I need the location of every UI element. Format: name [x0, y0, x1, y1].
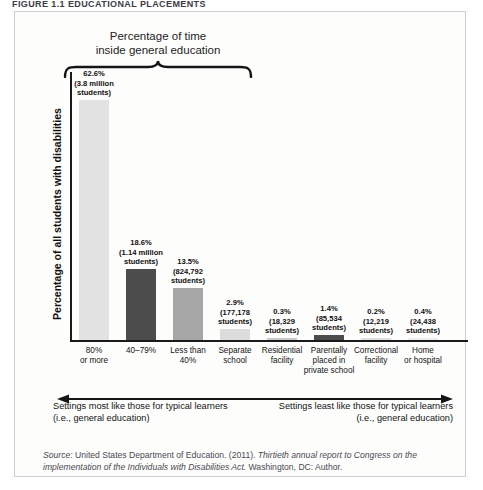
bar	[314, 335, 344, 340]
bar-count: (824,792	[157, 267, 219, 276]
bar-count: (24,438	[392, 317, 454, 326]
x-axis-tick-line: or hospital	[393, 356, 453, 366]
bar	[126, 269, 156, 340]
bar-column: 2.9%(177,178students)	[213, 72, 257, 340]
x-axis-tick-line: private school	[299, 366, 359, 376]
brace-caption: Percentage of time inside general educat…	[63, 29, 253, 57]
source-text-2: Washington, DC: Author.	[246, 462, 342, 472]
figure-heading: FIGURE 1.1 EDUCATIONAL PLACEMENTS	[12, 0, 312, 9]
bar-column: 0.3%(18,329students)	[260, 72, 304, 340]
bar-value-label: 62.6%(3.8 millionstudents)	[63, 69, 125, 97]
bar-column: 1.4%(85,534students)	[307, 72, 351, 340]
x-axis-tick-label: Homeor hospital	[393, 346, 453, 366]
bar-percent: 0.4%	[392, 307, 454, 316]
bar-column: 0.2%(12,219students)	[354, 72, 398, 340]
bar-value-label: 0.4%(24,438students)	[392, 307, 454, 335]
x-axis-category-labels: 80%or more40–79%Less than40%Separatescho…	[72, 346, 468, 386]
bar	[361, 338, 391, 340]
brace-caption-line-1: Percentage of time	[63, 29, 253, 43]
annotation-right: Settings least like those for typical le…	[263, 401, 453, 424]
source-note: Source: United States Department of Educ…	[43, 449, 463, 473]
bar-count: (1.14 million	[110, 248, 172, 257]
bar-count: (3.8 million	[63, 79, 125, 88]
bar-column: 0.4%(24,438students)	[401, 72, 445, 340]
brace-caption-line-2: inside general education	[63, 43, 253, 57]
bar	[79, 100, 109, 340]
source-text-1: United States Department of Education. (…	[75, 450, 258, 460]
x-axis-tick-line: Home	[393, 346, 453, 356]
annotation-left: Settings most like those for typical lea…	[53, 401, 243, 424]
figure-container: Percentage of time inside general educat…	[14, 11, 466, 477]
bar-plot-area: 62.6%(3.8 millionstudents)18.6%(1.14 mil…	[72, 72, 468, 340]
bar-percent: 2.9%	[204, 298, 266, 307]
bar-count: students)	[392, 326, 454, 335]
bar-percent: 18.6%	[110, 238, 172, 247]
bar	[408, 338, 438, 340]
bar-percent: 13.5%	[157, 257, 219, 266]
bar-column: 18.6%(1.14 millionstudents)	[119, 72, 163, 340]
x-axis-line	[70, 340, 468, 342]
bar-percent: 62.6%	[63, 69, 125, 78]
source-prefix: Source:	[43, 450, 75, 460]
bar-count: students)	[157, 276, 219, 285]
y-axis-title: Percentage of all students with disabili…	[51, 89, 63, 339]
bar	[267, 338, 297, 340]
bar	[173, 288, 203, 340]
bar-count: students)	[63, 88, 125, 97]
bar-value-label: 13.5%(824,792students)	[157, 257, 219, 285]
bar	[220, 329, 250, 340]
x-axis-tick-line: or more	[64, 356, 124, 366]
bar-column: 62.6%(3.8 millionstudents)	[72, 72, 116, 340]
